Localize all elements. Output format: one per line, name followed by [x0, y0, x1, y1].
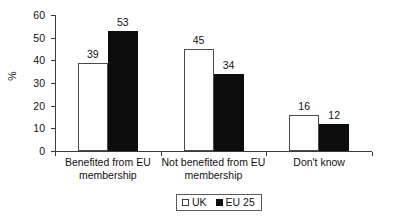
bar-uk-0 — [78, 63, 108, 151]
y-axis-tick-label: 60 — [17, 10, 45, 20]
y-axis-tick-label: 10 — [17, 123, 45, 133]
x-axis-category-label-line: membership — [153, 169, 275, 182]
legend-item-eu25: EU 25 — [216, 197, 255, 208]
x-axis-category-label-line: Don't know — [258, 156, 380, 169]
y-axis-tick-label: 40 — [17, 55, 45, 65]
bar-chart: % 0102030405060 395345341612 Benefited f… — [0, 0, 397, 218]
legend-item-uk: UK — [182, 197, 207, 208]
y-axis-tick-label: 30 — [17, 78, 45, 88]
x-axis-category-label: Benefited from EUmembership — [47, 156, 169, 181]
bar-value-label: 34 — [206, 60, 252, 71]
open-square-swatch-icon — [182, 199, 189, 206]
y-axis-tick-label: 20 — [17, 101, 45, 111]
x-axis-category-label-line: Not benefited from EU — [153, 156, 275, 169]
legend-label-eu25: EU 25 — [226, 197, 255, 208]
bar-eu25-2 — [319, 124, 349, 151]
x-axis-category-label: Not benefited from EUmembership — [153, 156, 275, 181]
x-axis-category-label-line: Benefited from EU — [47, 156, 169, 169]
bar-value-label: 45 — [176, 35, 222, 46]
chart-legend: UK EU 25 — [176, 194, 262, 211]
y-axis-tick-label: 0 — [17, 146, 45, 156]
bar-value-label: 53 — [100, 17, 146, 28]
bar-value-label: 12 — [311, 110, 357, 121]
bar-eu25-1 — [214, 74, 244, 151]
y-axis-title: % — [6, 71, 18, 80]
bar-value-label: 39 — [70, 49, 116, 60]
filled-square-swatch-icon — [216, 199, 223, 206]
y-axis-tick-label: 50 — [17, 33, 45, 43]
x-axis-category-label: Don't know — [258, 156, 380, 169]
x-axis-category-label-line: membership — [47, 169, 169, 182]
x-axis-line — [55, 151, 372, 152]
legend-label-uk: UK — [192, 197, 207, 208]
